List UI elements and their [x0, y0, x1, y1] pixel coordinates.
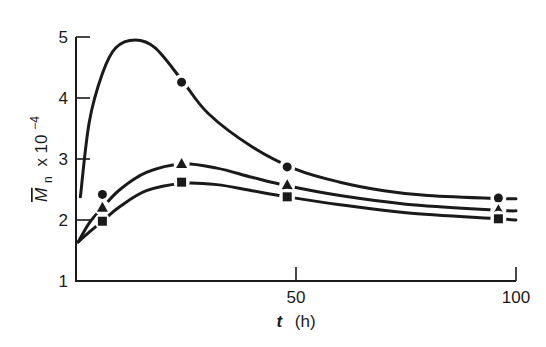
square-marker-icon: [494, 214, 503, 223]
square-marker-icon: [177, 178, 186, 187]
y-tick-label: 1: [59, 272, 68, 291]
y-tick-label: 2: [59, 211, 68, 230]
x-tick-label: 100: [502, 288, 530, 307]
series-circles: [80, 40, 516, 206]
series-group: [78, 40, 516, 242]
y-tick-label: 4: [59, 89, 68, 108]
y-tick-label: 5: [59, 28, 68, 47]
y-axis-subscript: n: [41, 176, 55, 183]
square-marker-icon: [283, 192, 292, 201]
circle-marker-icon: [283, 162, 292, 171]
series-line: [80, 40, 516, 199]
series-line: [78, 164, 516, 242]
y-axis-times: x 10: [32, 134, 51, 166]
y-axis-symbol: M: [32, 187, 51, 202]
svg-text:M n x 10: M n x 10 −4: [28, 116, 56, 202]
x-axis-unit: (h): [295, 312, 316, 331]
series-line: [78, 183, 516, 242]
x-axis-title: t (h): [276, 312, 315, 331]
square-marker-icon: [98, 217, 107, 226]
circle-marker-icon: [177, 78, 186, 87]
circle-marker-icon: [98, 190, 107, 199]
y-tick-label: 3: [59, 150, 68, 169]
y-axis-title: M n x 10 −4: [28, 116, 56, 202]
y-axis-exponent: −4: [28, 116, 42, 130]
chart: 1234550100 t (h) M n x 10 −4: [0, 0, 546, 347]
axis-labels: t (h) M n x 10 −4: [28, 116, 316, 331]
x-axis-symbol: t: [276, 312, 283, 331]
circle-marker-icon: [494, 194, 503, 203]
x-tick-label: 50: [287, 288, 306, 307]
